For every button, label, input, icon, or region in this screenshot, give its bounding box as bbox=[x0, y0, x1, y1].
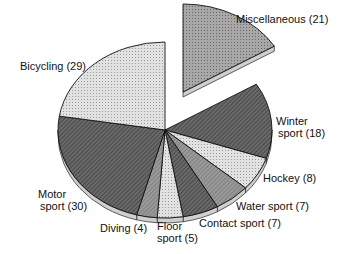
pie-chart: Miscellaneous (21) Winter sport (18) Hoc… bbox=[0, 0, 339, 254]
label-water-sport: Water sport (7) bbox=[236, 200, 309, 212]
slice-bicycling bbox=[59, 42, 165, 130]
label-floor-sport-line1: Floor bbox=[157, 220, 182, 232]
label-motor-sport-line2: sport (30) bbox=[40, 200, 87, 212]
label-floor-sport-line2: sport (5) bbox=[157, 232, 198, 244]
label-miscellaneous: Miscellaneous (21) bbox=[236, 13, 328, 25]
label-winter-sport-line1: Winter bbox=[276, 115, 308, 127]
label-diving: Diving (4) bbox=[100, 222, 147, 234]
label-hockey: Hockey (8) bbox=[263, 172, 316, 184]
label-contact-sport: Contact sport (7) bbox=[199, 217, 281, 229]
label-bicycling: Bicycling (29) bbox=[20, 60, 86, 72]
label-motor-sport-line1: Motor bbox=[38, 188, 66, 200]
label-winter-sport-line2: sport (18) bbox=[278, 127, 325, 139]
